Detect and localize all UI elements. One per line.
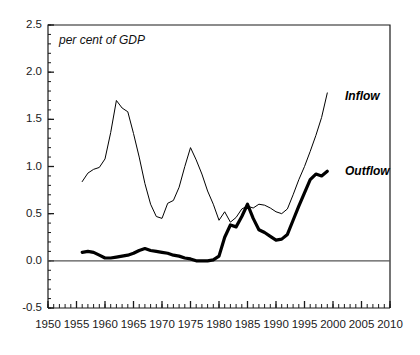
axis-unit-note: per cent of GDP <box>59 33 145 47</box>
y-tick-label: 0.0 <box>6 255 42 267</box>
x-tick-label: 2010 <box>370 319 410 331</box>
series-lines <box>82 93 327 261</box>
series-label-inflow: Inflow <box>345 89 380 103</box>
y-tick-label: 1.0 <box>6 161 42 173</box>
y-tick-label: 2.5 <box>6 19 42 31</box>
series-label-outflow: Outflow <box>345 164 390 178</box>
y-tick-label: 2.0 <box>6 66 42 78</box>
y-tick-label: -0.5 <box>6 302 42 314</box>
plot-frame <box>48 25 390 308</box>
y-tick-label: 0.5 <box>6 208 42 220</box>
y-tick-label: 1.5 <box>6 113 42 125</box>
axis-ticks <box>48 25 390 308</box>
chart-container: per cent of GDP -0.50.00.51.01.52.02.5 1… <box>0 0 420 355</box>
